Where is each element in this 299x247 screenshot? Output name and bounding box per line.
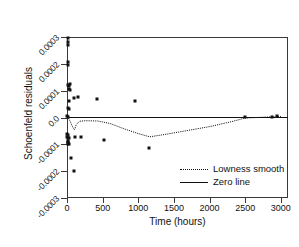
data-point — [68, 88, 71, 91]
data-point — [73, 170, 76, 173]
data-point — [68, 108, 71, 111]
data-point — [276, 115, 279, 118]
legend-swatch-dotted-line-icon — [180, 165, 208, 173]
x-tick-label: 0 — [64, 203, 69, 213]
data-point — [80, 136, 83, 139]
legend-label: Zero line — [213, 176, 250, 187]
chart-figure: Schoenfeld residuals Time (hours) 0.0003… — [0, 0, 299, 247]
legend-swatch-solid-line-icon — [180, 178, 208, 186]
data-point — [70, 157, 73, 160]
data-point — [72, 97, 75, 100]
data-point — [66, 115, 69, 118]
legend-label: Lowness smooth — [213, 163, 284, 174]
x-tick-label: 500 — [95, 203, 110, 213]
data-point — [67, 63, 70, 66]
data-point — [244, 115, 247, 118]
data-point — [69, 83, 72, 86]
data-point — [147, 146, 150, 149]
data-point — [271, 115, 274, 118]
data-point — [103, 138, 106, 141]
x-tick-label: 2500 — [235, 203, 255, 213]
x-tick-label: 2000 — [200, 203, 220, 213]
legend-item-zero-line: Zero line — [180, 175, 284, 188]
legend-item-lowness-smooth: Lowness smooth — [180, 162, 284, 175]
x-tick-label: 3000 — [271, 203, 291, 213]
x-tick-label: 1500 — [164, 203, 184, 213]
data-point — [77, 96, 80, 99]
x-tick-label: 1000 — [128, 203, 148, 213]
chart-legend: Lowness smooth Zero line — [180, 162, 284, 188]
lowness-smooth-path — [67, 116, 281, 137]
data-point — [67, 142, 70, 145]
x-axis-title: Time (hours) — [67, 216, 288, 227]
data-point — [66, 44, 69, 47]
data-point — [133, 100, 136, 103]
data-point — [74, 135, 77, 138]
data-point — [95, 98, 98, 101]
data-point — [67, 99, 70, 102]
